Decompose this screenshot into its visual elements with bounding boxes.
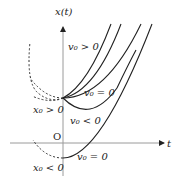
motion-diagram: x(t) t O v₀ > 0 v₀ = 0 v₀ < 0 x₀ > 0 x₀ … [0, 0, 176, 183]
origin-label: O [53, 131, 61, 142]
label-v0-zero-upper: v₀ = 0 [84, 87, 115, 98]
y-axis-label: x(t) [55, 6, 73, 17]
x-axis-label: t [167, 138, 172, 149]
dashed-curve-v0-neg-past [32, 96, 63, 101]
label-x0-neg: x₀ < 0 [33, 162, 64, 173]
dashed-curve-v0-pos-past [29, 42, 63, 100]
label-v0-zero-lower: v₀ = 0 [77, 151, 108, 162]
label-v0-neg: v₀ < 0 [70, 115, 101, 126]
label-x0-pos: x₀ > 0 [33, 104, 64, 115]
label-v0-pos: v₀ > 0 [68, 41, 99, 52]
dashed-curve-v0-zero-past [30, 78, 63, 98]
